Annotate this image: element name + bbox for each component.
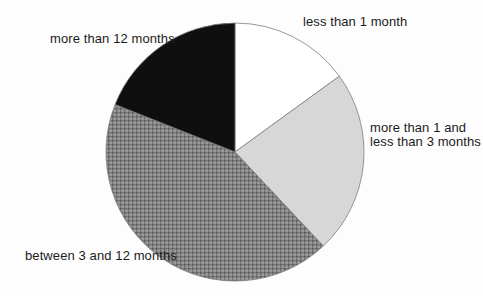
slice-label-more-than-12-months: more than 12 months (50, 32, 175, 46)
slice-label-1-to-3-months: more than 1 and less than 3 months (370, 121, 481, 149)
pie-chart-figure: less than 1 month more than 1 and less t… (0, 0, 483, 296)
slice-label-less-than-1-month: less than 1 month (303, 15, 407, 29)
slice-label-3-to-12-months: between 3 and 12 months (25, 249, 177, 263)
